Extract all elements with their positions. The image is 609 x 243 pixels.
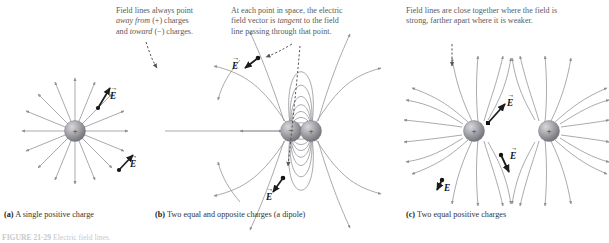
annotation-note-c-line-2: strong, farther apart where it is weaker… bbox=[406, 16, 606, 26]
panel-c-E-label-1: → E bbox=[507, 94, 515, 108]
figure-number-caption: FIGURE 21-29 Electric field lines. bbox=[2, 233, 111, 242]
panel-b-positive-charge-sign: + bbox=[308, 126, 313, 136]
panel-c-E-vector-3 bbox=[437, 180, 442, 190]
panel-b-E-label-2: → E bbox=[266, 188, 274, 202]
panel-b-E-vector-2 bbox=[273, 178, 283, 192]
panel-a-charge-sign: + bbox=[72, 126, 77, 136]
annotation-note-c: Field lines are close together where the… bbox=[406, 6, 606, 27]
annotation-note-a-line-3: and toward (−) charges. bbox=[116, 27, 208, 37]
panel-c-E-vector-2 bbox=[501, 155, 509, 172]
panel-b-caption: (b) Two equal and opposite charges (a di… bbox=[155, 210, 305, 219]
panel-c-field-lines bbox=[404, 56, 609, 206]
panel-c-charge-sign-right: + bbox=[546, 126, 551, 136]
annotation-note-a: Field lines always point away from (+) c… bbox=[116, 6, 208, 37]
panel-a-E-label-2: → E bbox=[130, 155, 138, 169]
figure-number: FIGURE 21-29 bbox=[2, 233, 51, 242]
panel-b-E-label-1: → E bbox=[232, 57, 240, 71]
figure-caption-text: Electric field lines. bbox=[53, 233, 111, 242]
panel-b-leader-line-2 bbox=[288, 46, 300, 166]
panel-a-caption-text: A single positive charge bbox=[15, 210, 94, 219]
annotation-note-b-line-2: field vector is tangent to the field bbox=[231, 16, 386, 26]
panel-c-caption: (c) Two equal positive charges bbox=[406, 210, 506, 219]
panel-c-art: + + bbox=[404, 44, 609, 206]
electric-field-lines-figure: + bbox=[0, 0, 609, 243]
panel-a-E-label-1: → E bbox=[110, 87, 118, 101]
panel-a-letter: (a) bbox=[4, 210, 14, 219]
annotation-note-b: At each point in space, the electric fie… bbox=[231, 6, 386, 37]
panel-b-letter: (b) bbox=[155, 210, 165, 219]
annotation-note-b-line-1: At each point in space, the electric bbox=[231, 6, 386, 16]
panel-b-caption-text: Two equal and opposite charges (a dipole… bbox=[167, 210, 305, 219]
annotation-note-a-line-1: Field lines always point bbox=[116, 6, 208, 16]
panel-a-caption: (a) A single positive charge bbox=[4, 210, 94, 219]
panel-c-E-vector-1 bbox=[488, 104, 505, 123]
panel-c-charge-sign-left: + bbox=[471, 126, 476, 136]
panel-c-E-label-2: → E bbox=[510, 147, 518, 161]
panel-a-leader-line bbox=[146, 42, 157, 68]
panel-c-letter: (c) bbox=[406, 210, 415, 219]
panel-b-E-vector-1 bbox=[245, 58, 258, 68]
annotation-note-a-line-2: away from (+) charges bbox=[116, 16, 208, 26]
annotation-note-c-line-1: Field lines are close together where the… bbox=[406, 6, 606, 16]
panel-c-caption-text: Two equal positive charges bbox=[417, 210, 506, 219]
panel-c-E-label-3: E bbox=[444, 183, 450, 193]
panel-b-leader-line-1 bbox=[266, 44, 292, 57]
annotation-note-b-line-3: line passing through that point. bbox=[231, 27, 386, 37]
